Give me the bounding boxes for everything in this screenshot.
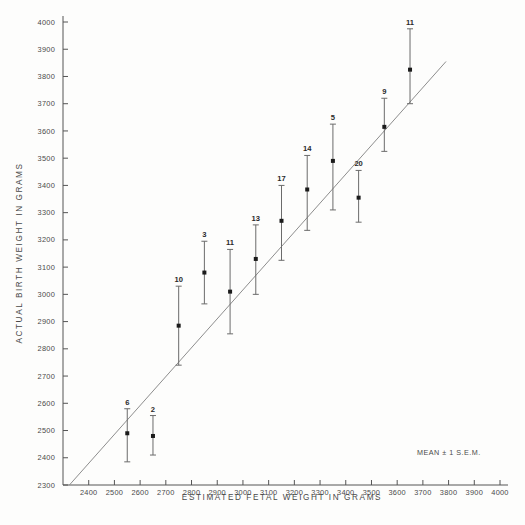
x-tick-label: 2400 (80, 488, 97, 497)
y-tick-label: 2500 (38, 426, 55, 435)
data-point-marker (125, 431, 129, 435)
y-tick-label: 3100 (38, 263, 55, 272)
sample-size-label: 3 (202, 230, 206, 239)
figure-container: 2400250026002700280029003000310032003300… (0, 0, 525, 525)
x-tick-label: 3700 (414, 488, 431, 497)
x-tick-label: 2700 (157, 488, 174, 497)
x-tick-label: 3800 (440, 488, 457, 497)
y-tick-label: 3900 (38, 45, 55, 54)
sample-size-label: 14 (303, 144, 312, 153)
y-tick-label: 3800 (38, 72, 55, 81)
data-series-error-bars (124, 29, 413, 462)
data-point-marker (357, 196, 361, 200)
sample-size-labels: 6210311131714520911 (125, 18, 415, 414)
y-tick-label: 3600 (38, 127, 55, 136)
data-point-marker (151, 434, 155, 438)
data-point-marker (202, 271, 206, 275)
y-tick-label: 2800 (38, 344, 55, 353)
sample-size-label: 5 (331, 113, 336, 122)
sample-size-label: 11 (406, 18, 415, 27)
sample-size-label: 13 (252, 214, 260, 223)
y-tick-label: 3300 (38, 208, 55, 217)
y-tick-label: 2600 (38, 399, 55, 408)
y-tick-label: 3700 (38, 99, 55, 108)
data-point-marker (254, 257, 258, 261)
sample-size-label: 17 (277, 174, 285, 183)
line-of-identity (69, 61, 446, 485)
sample-size-label: 6 (125, 398, 129, 407)
sample-size-label: 9 (382, 87, 386, 96)
y-tick-label: 4000 (38, 18, 55, 27)
y-tick-labels: 2300240025002600270028002900300031003200… (38, 18, 55, 490)
sample-size-label: 20 (354, 159, 362, 168)
y-tick-label: 3200 (38, 235, 55, 244)
y-tick-label: 2700 (38, 372, 55, 381)
data-point-marker (305, 187, 309, 191)
sem-annotation: MEAN ± 1 S.E.M. (417, 448, 481, 457)
y-tick-label: 3000 (38, 290, 55, 299)
axes-group (63, 16, 508, 485)
x-tick-label: 2500 (106, 488, 123, 497)
data-point-marker (177, 324, 181, 328)
data-point-marker (382, 125, 386, 129)
scatter-plot-with-error-bars: 2400250026002700280029003000310032003300… (0, 0, 525, 525)
x-tick-label: 3900 (466, 488, 483, 497)
y-tick-label: 2300 (38, 481, 55, 490)
y-tick-label: 3500 (38, 154, 55, 163)
x-tick-label: 2600 (131, 488, 148, 497)
x-tick-label: 3600 (388, 488, 405, 497)
identity-line (69, 61, 446, 485)
data-point-marker (408, 68, 412, 72)
y-tick-label: 2400 (38, 453, 55, 462)
y-axis-title: ACTUAL BIRTH WEIGHT IN GRAMS (15, 162, 24, 343)
data-point-marker (228, 290, 232, 294)
x-axis-title: ESTIMATED FETAL WEIGHT IN GRAMS (182, 493, 382, 502)
sample-size-label: 2 (151, 405, 155, 414)
y-tick-label: 3400 (38, 181, 55, 190)
data-point-marker (331, 159, 335, 163)
sample-size-label: 11 (226, 238, 235, 247)
data-point-marker (280, 219, 284, 223)
y-tick-label: 2900 (38, 317, 55, 326)
x-tick-label: 4000 (491, 488, 508, 497)
sample-size-label: 10 (174, 275, 182, 284)
